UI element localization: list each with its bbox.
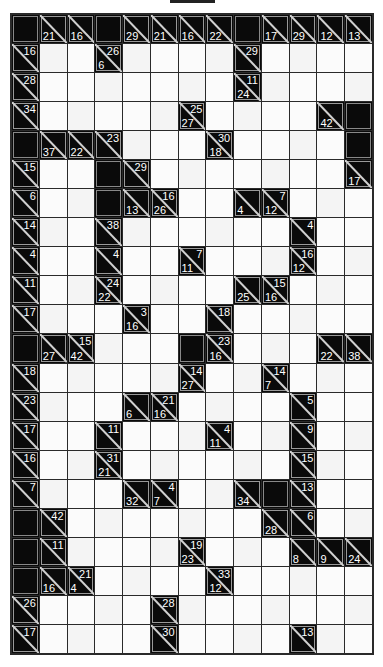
entry-cell[interactable] (123, 102, 150, 130)
entry-cell[interactable] (345, 218, 372, 246)
entry-cell[interactable] (206, 247, 233, 275)
entry-cell[interactable] (40, 422, 67, 450)
entry-cell[interactable] (179, 276, 206, 304)
entry-cell[interactable] (262, 451, 289, 479)
entry-cell[interactable] (179, 422, 206, 450)
entry-cell[interactable] (40, 189, 67, 217)
entry-cell[interactable] (317, 480, 344, 508)
entry-cell[interactable] (68, 189, 95, 217)
entry-cell[interactable] (40, 364, 67, 392)
entry-cell[interactable] (151, 131, 178, 159)
entry-cell[interactable] (206, 509, 233, 537)
entry-cell[interactable] (290, 73, 317, 101)
entry-cell[interactable] (317, 131, 344, 159)
entry-cell[interactable] (234, 509, 261, 537)
entry-cell[interactable] (123, 334, 150, 362)
entry-cell[interactable] (262, 247, 289, 275)
entry-cell[interactable] (262, 334, 289, 362)
entry-cell[interactable] (95, 364, 122, 392)
entry-cell[interactable] (206, 160, 233, 188)
entry-cell[interactable] (262, 625, 289, 653)
entry-cell[interactable] (345, 567, 372, 595)
entry-cell[interactable] (206, 596, 233, 624)
entry-cell[interactable] (262, 102, 289, 130)
entry-cell[interactable] (290, 189, 317, 217)
entry-cell[interactable] (234, 451, 261, 479)
entry-cell[interactable] (345, 73, 372, 101)
entry-cell[interactable] (345, 596, 372, 624)
entry-cell[interactable] (68, 218, 95, 246)
entry-cell[interactable] (151, 305, 178, 333)
entry-cell[interactable] (345, 364, 372, 392)
entry-cell[interactable] (262, 393, 289, 421)
entry-cell[interactable] (262, 218, 289, 246)
entry-cell[interactable] (151, 44, 178, 72)
entry-cell[interactable] (95, 393, 122, 421)
entry-cell[interactable] (206, 102, 233, 130)
entry-cell[interactable] (234, 567, 261, 595)
entry-cell[interactable] (290, 334, 317, 362)
entry-cell[interactable] (290, 596, 317, 624)
entry-cell[interactable] (179, 160, 206, 188)
entry-cell[interactable] (290, 102, 317, 130)
entry-cell[interactable] (234, 538, 261, 566)
entry-cell[interactable] (317, 364, 344, 392)
entry-cell[interactable] (151, 160, 178, 188)
entry-cell[interactable] (345, 276, 372, 304)
entry-cell[interactable] (317, 625, 344, 653)
entry-cell[interactable] (234, 596, 261, 624)
entry-cell[interactable] (234, 393, 261, 421)
entry-cell[interactable] (123, 451, 150, 479)
entry-cell[interactable] (179, 451, 206, 479)
entry-cell[interactable] (345, 393, 372, 421)
entry-cell[interactable] (68, 393, 95, 421)
entry-cell[interactable] (95, 334, 122, 362)
entry-cell[interactable] (206, 625, 233, 653)
entry-cell[interactable] (40, 451, 67, 479)
entry-cell[interactable] (179, 218, 206, 246)
entry-cell[interactable] (262, 160, 289, 188)
entry-cell[interactable] (262, 538, 289, 566)
entry-cell[interactable] (123, 422, 150, 450)
entry-cell[interactable] (345, 189, 372, 217)
entry-cell[interactable] (206, 538, 233, 566)
entry-cell[interactable] (68, 538, 95, 566)
entry-cell[interactable] (151, 567, 178, 595)
entry-cell[interactable] (95, 102, 122, 130)
entry-cell[interactable] (317, 422, 344, 450)
entry-cell[interactable] (262, 422, 289, 450)
entry-cell[interactable] (345, 625, 372, 653)
entry-cell[interactable] (68, 451, 95, 479)
entry-cell[interactable] (317, 44, 344, 72)
entry-cell[interactable] (317, 596, 344, 624)
entry-cell[interactable] (123, 131, 150, 159)
entry-cell[interactable] (68, 73, 95, 101)
entry-cell[interactable] (68, 247, 95, 275)
entry-cell[interactable] (151, 509, 178, 537)
entry-cell[interactable] (262, 305, 289, 333)
entry-cell[interactable] (123, 364, 150, 392)
entry-cell[interactable] (290, 305, 317, 333)
entry-cell[interactable] (95, 567, 122, 595)
entry-cell[interactable] (262, 596, 289, 624)
entry-cell[interactable] (317, 451, 344, 479)
entry-cell[interactable] (40, 480, 67, 508)
entry-cell[interactable] (317, 189, 344, 217)
entry-cell[interactable] (123, 538, 150, 566)
entry-cell[interactable] (68, 480, 95, 508)
entry-cell[interactable] (317, 276, 344, 304)
entry-cell[interactable] (95, 625, 122, 653)
entry-cell[interactable] (179, 596, 206, 624)
entry-cell[interactable] (206, 480, 233, 508)
entry-cell[interactable] (40, 596, 67, 624)
entry-cell[interactable] (123, 73, 150, 101)
entry-cell[interactable] (262, 567, 289, 595)
entry-cell[interactable] (123, 567, 150, 595)
entry-cell[interactable] (290, 44, 317, 72)
entry-cell[interactable] (40, 73, 67, 101)
entry-cell[interactable] (234, 364, 261, 392)
entry-cell[interactable] (234, 131, 261, 159)
entry-cell[interactable] (206, 364, 233, 392)
entry-cell[interactable] (151, 247, 178, 275)
entry-cell[interactable] (345, 480, 372, 508)
